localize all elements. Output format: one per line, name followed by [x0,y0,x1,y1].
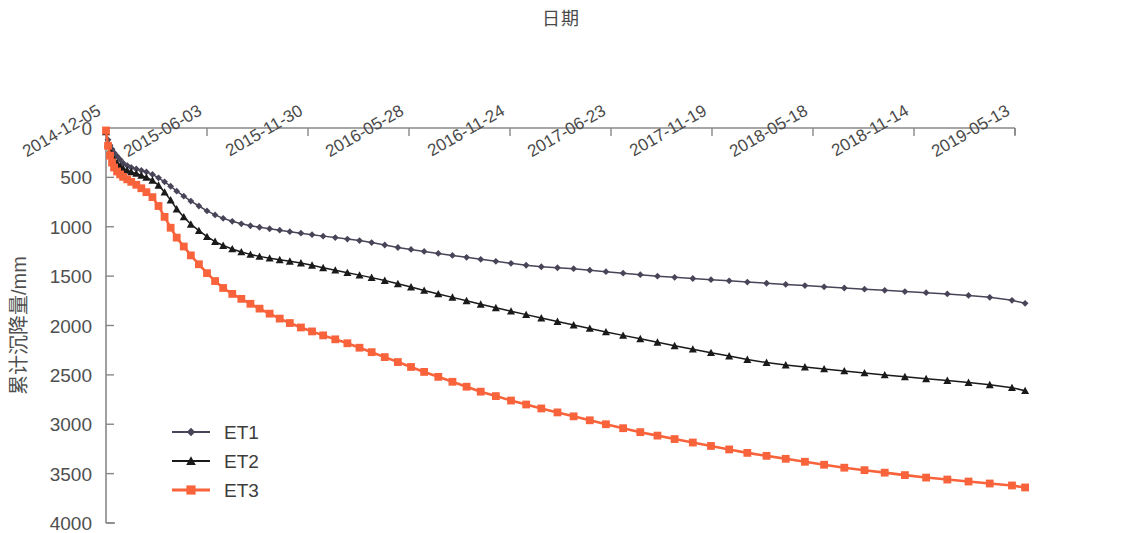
data-point [782,455,790,463]
chart-title: 日期 [0,4,1122,30]
data-point [149,193,157,201]
x-tick-label: 2015-06-03 [120,101,205,161]
data-point [586,267,593,274]
x-tick-label: 2017-11-19 [626,101,710,160]
data-point [344,236,351,243]
legend-label-et2: ET2 [224,451,259,472]
series-line-et1 [106,131,1025,303]
x-tick-label: 2017-06-23 [524,101,609,161]
data-point [801,458,809,466]
data-point [449,252,456,259]
data-point [332,234,339,241]
y-axis-ticks: 05001000150020002500300035004000 [50,118,114,533]
data-point [256,305,264,313]
data-point [368,348,376,356]
data-point [763,452,771,460]
y-tick-label: 2500 [50,365,92,386]
data-point [1009,297,1016,304]
data-point [537,405,545,413]
data-point [238,220,245,227]
data-point [247,300,255,308]
data-point [508,260,515,267]
y-tick-label: 1500 [50,266,92,287]
data-point [637,271,644,278]
data-point [707,442,715,450]
data-point [463,383,471,391]
data-point [394,244,401,251]
y-tick-label: 0 [81,118,92,139]
data-point [554,264,561,271]
data-point [319,331,327,339]
data-point [434,373,442,381]
data-point [298,230,305,237]
data-point [1021,484,1029,492]
chart-svg: 2014-12-052015-06-032015-11-302016-05-28… [0,0,1122,533]
data-point [308,328,316,336]
data-point [743,449,751,457]
data-point [276,227,283,234]
data-point [522,401,530,409]
data-point [106,152,114,160]
data-point [965,478,973,486]
data-point [554,409,562,417]
data-point [507,397,515,405]
legend-label-et3: ET3 [224,480,259,501]
data-point [725,446,733,454]
data-point [421,248,428,255]
data-point [286,319,294,327]
y-tick-label: 2000 [50,316,92,337]
data-point [211,277,219,285]
data-point [570,412,578,420]
data-point [523,262,530,269]
data-point [965,292,972,299]
data-point [297,324,305,332]
data-point [477,256,484,263]
data-point [782,281,789,288]
x-tick-label: 2015-11-30 [222,101,306,160]
data-point [408,246,415,253]
data-point [744,279,751,286]
data-point [220,215,227,222]
data-point [570,265,577,272]
data-point [155,202,163,210]
data-point [435,250,442,257]
data-point [212,212,219,219]
x-axis-ticks: 2014-12-052015-06-032015-11-302016-05-28… [19,101,1015,161]
data-point [219,242,227,249]
legend-marker-et3 [186,485,195,494]
data-point [381,353,389,361]
data-point [237,295,245,303]
data-point [492,258,499,265]
data-point [247,222,254,229]
y-tick-label: 4000 [50,513,92,533]
y-axis-title-text: 累计沉降量/mm [8,256,30,395]
data-point [228,290,236,298]
data-point [309,231,316,238]
data-point [394,358,402,366]
data-point [219,284,227,292]
data-point [654,273,661,280]
data-point [636,428,644,436]
series-et2 [102,128,1029,394]
y-tick-label: 3000 [50,414,92,435]
data-point [420,368,428,376]
data-point [726,277,733,284]
data-point [602,420,610,428]
series-line-et2 [106,132,1025,391]
data-point [620,270,627,277]
data-point [266,310,274,318]
data-point [861,286,868,293]
data-point [204,208,211,215]
data-point [161,213,169,221]
legend: ET1ET2ET3 [172,422,259,501]
data-point [923,289,930,296]
data-point [654,432,662,440]
data-point [671,435,679,443]
data-point [922,474,930,482]
data-point [266,225,273,232]
data-point [104,142,112,150]
y-tick-label: 500 [60,167,92,188]
data-point [449,378,457,386]
data-point [320,233,327,240]
data-point [356,237,363,244]
